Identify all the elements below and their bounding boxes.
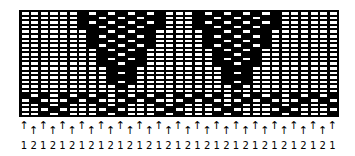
stitch-cell-light <box>272 44 279 47</box>
stitch-cell-light <box>291 90 298 93</box>
stitch-cell-light <box>89 113 96 116</box>
stitch-cell-dark <box>243 53 250 56</box>
stitch-cell-dark <box>99 12 106 15</box>
stitch-cell-light <box>22 26 29 29</box>
stitch-cell-dark <box>311 94 318 97</box>
stitch-cell-light <box>330 53 337 56</box>
stitch-cell-light <box>108 12 115 15</box>
stitch-cell-light <box>22 12 29 15</box>
stitch-cell-dark <box>89 17 96 20</box>
arrow-up-icon: ↑ <box>144 125 154 136</box>
stitch-cell-dark <box>291 94 298 97</box>
stitch-cell-light <box>224 99 231 102</box>
stitch-cell-light <box>311 72 318 75</box>
stitch-cell-dark <box>214 40 221 43</box>
stitch-cell-light <box>118 81 125 84</box>
stitch-cell-dark <box>156 21 163 24</box>
stitch-cell-dark <box>99 40 106 43</box>
stitch-cell-light <box>22 40 29 43</box>
stitch-cell-light <box>108 104 115 107</box>
stitch-cell-light <box>330 85 337 88</box>
stitch-cell-dark <box>137 21 144 24</box>
stitch-cell-light <box>22 53 29 56</box>
stitch-cell-light <box>89 81 96 84</box>
column-label: 1 <box>77 140 87 152</box>
stitch-cell-light <box>128 104 135 107</box>
stitch-cell-light <box>272 40 279 43</box>
stitch-cell-dark <box>128 99 135 102</box>
stitch-cell-light <box>195 44 202 47</box>
stitch-cell-light <box>156 40 163 43</box>
stitch-cell-light <box>99 108 106 111</box>
stitch-cell-light <box>89 76 96 79</box>
stitch-cell-light <box>156 76 163 79</box>
stitch-cell-light <box>22 81 29 84</box>
stitch-cell-light <box>195 40 202 43</box>
stitch-cell-dark <box>272 104 279 107</box>
column-label: 1 <box>19 140 29 152</box>
stitch-cell-light <box>147 113 154 116</box>
stitch-cell-dark <box>330 104 337 107</box>
stitch-cell-light <box>320 53 327 56</box>
stitch-cell-dark <box>108 81 115 84</box>
stitch-cell-light <box>60 81 67 84</box>
stitch-cell-light <box>128 90 135 93</box>
stitch-cell-light <box>70 62 77 65</box>
stitch-cell-light <box>137 90 144 93</box>
stitch-cell-light <box>60 30 67 33</box>
stitch-cell-light <box>301 67 308 70</box>
column-label: 1 <box>173 140 183 152</box>
stitch-cell-dark <box>205 44 212 47</box>
stitch-cell-light <box>205 72 212 75</box>
stitch-cell-light <box>176 76 183 79</box>
stitch-cell-light <box>205 67 212 70</box>
stitch-cell-dark <box>272 113 279 116</box>
stitch-cell-light <box>128 30 135 33</box>
column-label: 2 <box>29 140 39 152</box>
stitch-cell-light <box>282 35 289 38</box>
stitch-cell-light <box>156 53 163 56</box>
stitch-cell-light <box>234 17 241 20</box>
stitch-cell-light <box>301 94 308 97</box>
stitch-cell-dark <box>243 99 250 102</box>
stitch-cell-light <box>330 17 337 20</box>
stitch-cell-light <box>166 44 173 47</box>
arrow-up-icon: ↑ <box>115 120 125 131</box>
stitch-cell-light <box>22 104 29 107</box>
stitch-cell-dark <box>41 104 48 107</box>
column-label: 2 <box>241 140 251 152</box>
stitch-cell-dark <box>234 21 241 24</box>
stitch-cell-light <box>128 49 135 52</box>
stitch-cell-dark <box>234 67 241 70</box>
stitch-cell-dark <box>224 76 231 79</box>
stitch-cell-light <box>50 35 57 38</box>
stitch-cell-dark <box>128 35 135 38</box>
stitch-cell-dark <box>176 94 183 97</box>
stitch-cell-light <box>118 99 125 102</box>
stitch-cell-light <box>60 35 67 38</box>
stitch-cell-light <box>272 81 279 84</box>
stitch-cell-dark <box>262 35 269 38</box>
stitch-cell-light <box>147 62 154 65</box>
stitch-cell-light <box>262 104 269 107</box>
stitch-cell-light <box>234 99 241 102</box>
stitch-cell-light <box>176 62 183 65</box>
stitch-cell-dark <box>224 108 231 111</box>
stitch-cell-light <box>330 26 337 29</box>
stitch-cell-light <box>311 58 318 61</box>
stitch-cell-light <box>214 17 221 20</box>
stitch-cell-light <box>195 72 202 75</box>
stitch-cell-light <box>166 94 173 97</box>
stitch-cell-light <box>311 67 318 70</box>
stitch-cell-light <box>301 40 308 43</box>
stitch-cell-light <box>70 113 77 116</box>
stitch-cell-light <box>282 99 289 102</box>
stitch-cell-light <box>22 30 29 33</box>
stitch-cell-light <box>195 104 202 107</box>
stitch-cell-light <box>301 53 308 56</box>
stitch-cell-light <box>79 104 86 107</box>
stitch-cell-light <box>291 12 298 15</box>
arrow-up-icon: ↑ <box>58 120 68 131</box>
stitch-cell-dark <box>108 44 115 47</box>
stitch-cell-light <box>50 99 57 102</box>
